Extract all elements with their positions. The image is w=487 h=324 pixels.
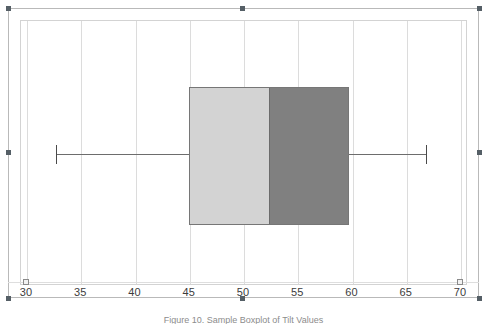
gridline-x-65: [407, 21, 408, 284]
selection-handle-middle-right[interactable]: [477, 150, 482, 155]
selection-handle-top-middle[interactable]: [240, 6, 245, 11]
axis-endpoint-marker-70[interactable]: [457, 279, 463, 285]
x-axis-tick-labels: 303540455055606570: [0, 286, 487, 304]
box-half-median-to-q3: [269, 88, 348, 224]
box-half-q1-to-median: [190, 88, 269, 224]
boxplot-box[interactable]: [189, 87, 350, 225]
axis-baseline-rule: [8, 282, 479, 283]
selection-handle-top-left[interactable]: [6, 6, 11, 11]
gridline-x-70: [461, 21, 462, 284]
whisker-lower: [56, 154, 188, 155]
selection-handle-bottom-right[interactable]: [477, 296, 482, 301]
whisker-cap-upper: [426, 145, 427, 164]
plot-area: [20, 20, 467, 285]
selection-handle-middle-left[interactable]: [6, 150, 11, 155]
x-tick-label-55: 55: [291, 286, 304, 298]
selection-handle-bottom-left[interactable]: [6, 296, 11, 301]
x-tick-label-70: 70: [454, 286, 467, 298]
gridline-x-30: [27, 21, 28, 284]
x-tick-label-35: 35: [74, 286, 87, 298]
gridline-x-35: [81, 21, 82, 284]
x-tick-label-30: 30: [20, 286, 33, 298]
figure-root: 303540455055606570 Figure 10. Sample Box…: [0, 0, 487, 324]
whisker-upper: [349, 154, 426, 155]
selection-handle-top-right[interactable]: [477, 6, 482, 11]
selection-handle-bottom-middle[interactable]: [240, 296, 245, 301]
axis-endpoint-marker-30[interactable]: [23, 279, 29, 285]
x-tick-label-45: 45: [182, 286, 195, 298]
whisker-cap-lower: [56, 145, 57, 164]
gridline-x-60: [353, 21, 354, 284]
figure-caption: Figure 10. Sample Boxplot of Tilt Values: [0, 314, 487, 324]
x-tick-label-40: 40: [128, 286, 141, 298]
x-tick-label-60: 60: [345, 286, 358, 298]
gridline-x-40: [136, 21, 137, 284]
x-tick-label-65: 65: [399, 286, 412, 298]
